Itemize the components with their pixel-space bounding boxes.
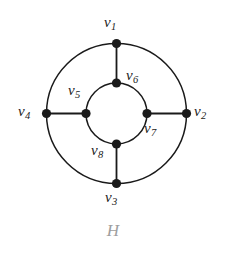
vertex-label-v1-letter: v — [104, 14, 111, 30]
vertex-v8 — [112, 139, 121, 148]
vertex-label-v3: v3 — [105, 190, 117, 208]
vertex-label-v8: v8 — [91, 143, 103, 161]
figure-container: v1 v2 v3 v4 v5 v6 v7 v8 H — [0, 0, 226, 253]
vertex-v1 — [112, 39, 121, 48]
vertex-label-v6: v6 — [126, 68, 138, 86]
vertex-label-v7: v7 — [144, 121, 156, 139]
vertex-label-v4-letter: v — [18, 103, 25, 119]
vertex-label-v2-letter: v — [194, 103, 201, 119]
figure-caption: H — [0, 222, 226, 239]
vertex-label-v6-index: 6 — [133, 74, 138, 85]
vertex-label-v2: v2 — [194, 104, 206, 122]
vertex-v2 — [182, 109, 191, 118]
vertex-label-v4: v4 — [18, 104, 30, 122]
vertex-v5 — [81, 109, 90, 118]
vertex-label-v8-index: 8 — [98, 149, 103, 160]
vertex-label-v1-index: 1 — [111, 21, 116, 32]
vertex-label-v5-letter: v — [68, 82, 75, 98]
vertex-v7 — [142, 109, 151, 118]
inner-cycle-circle — [86, 83, 147, 144]
vertex-label-v3-letter: v — [105, 189, 112, 205]
vertex-label-v1: v1 — [104, 15, 116, 33]
vertex-label-v4-index: 4 — [25, 110, 30, 121]
vertex-label-v8-letter: v — [91, 142, 98, 158]
vertex-v3 — [112, 179, 121, 188]
vertex-label-v2-index: 2 — [201, 110, 206, 121]
vertex-label-v7-index: 7 — [151, 127, 156, 138]
vertex-label-v5-index: 5 — [75, 89, 80, 100]
vertex-label-v3-index: 3 — [112, 196, 117, 207]
graph-diagram — [0, 0, 226, 253]
vertex-label-v5: v5 — [68, 83, 80, 101]
vertex-label-v7-letter: v — [144, 120, 151, 136]
vertex-v4 — [42, 109, 51, 118]
vertex-label-v6-letter: v — [126, 67, 133, 83]
vertex-v6 — [112, 78, 121, 87]
